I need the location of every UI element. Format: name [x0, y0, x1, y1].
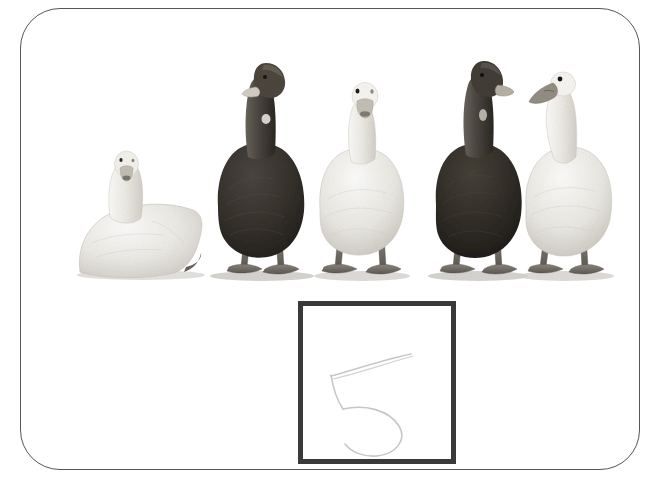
- row-of-ducks-photograph: [66, 29, 636, 284]
- duck-5-white-profile: [518, 72, 614, 281]
- handwritten-digit-5: [303, 306, 451, 459]
- worksheet-page: Counting worksheet card Black and white …: [0, 0, 657, 492]
- duck-1-white-sitting: [77, 151, 205, 280]
- duck-2-dark-standing: [210, 63, 314, 281]
- duck-4-dark-standing: [428, 61, 528, 281]
- card-frame: [20, 8, 640, 470]
- duck-3-white-standing: [314, 83, 410, 282]
- answer-box[interactable]: [298, 301, 456, 464]
